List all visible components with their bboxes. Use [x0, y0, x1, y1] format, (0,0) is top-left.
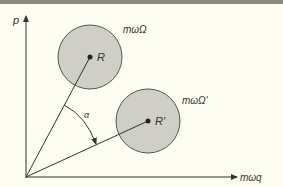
label-R: R [97, 51, 105, 63]
label-omega: mωΩ [123, 24, 147, 35]
vector-R-prime [26, 121, 148, 177]
angle-label-alpha: α [84, 110, 90, 120]
angle-arc [64, 105, 96, 144]
label-R-prime: R′ [155, 115, 166, 127]
point-R [88, 55, 93, 60]
diagram-frame: p mωq R R′ mωΩ mωΩ′ α [0, 0, 283, 187]
p-axis-label: p [12, 14, 19, 26]
label-omega-prime: mωΩ′ [182, 95, 209, 106]
q-axis-label: mωq [240, 172, 262, 183]
phase-space-diagram: p mωq R R′ mωΩ mωΩ′ α [0, 0, 283, 187]
point-R-prime [146, 119, 151, 124]
